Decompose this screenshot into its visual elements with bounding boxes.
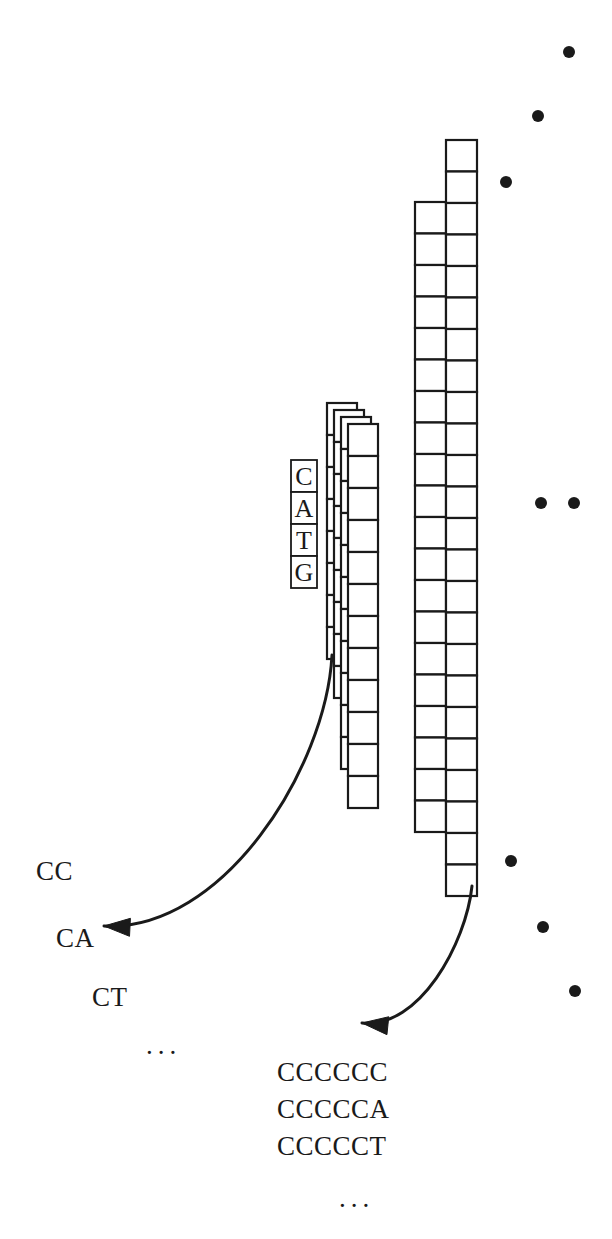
- ellipsis-dot-lower-diagonal-2: [569, 985, 581, 997]
- stack-cell-3-4: [348, 552, 378, 584]
- tall-cell-right-3: [446, 235, 477, 267]
- tall-cell-right-9: [446, 424, 477, 456]
- tall-cell-right-20: [446, 770, 477, 802]
- stack-cell-3-6: [348, 616, 378, 648]
- tall-cell-left-19: [415, 801, 446, 833]
- tall-cell-right-21: [446, 802, 477, 834]
- tall-cell-right-14: [446, 581, 477, 613]
- short-suffix-ellipsis: ...: [146, 1030, 181, 1061]
- dot-group: [500, 46, 581, 997]
- ellipsis-dot-upper-diagonal-1: [532, 110, 544, 122]
- sequence-column-diagram: CATG CCCACT... CCCCCCCCCCCACCCCCT...: [0, 0, 612, 1239]
- tall-cell-right-11: [446, 487, 477, 519]
- diagram-canvas: [0, 0, 612, 1239]
- tall-cell-left-13: [415, 612, 446, 644]
- tall-cell-left-6: [415, 391, 446, 423]
- tall-cell-left-9: [415, 486, 446, 518]
- tall-cell-right-19: [446, 739, 477, 771]
- arrow-to-short-suffixes-head: [104, 918, 130, 936]
- stack-cell-3-1: [348, 456, 378, 488]
- base-letter-c: C: [291, 464, 317, 492]
- tall-cell-left-3: [415, 297, 446, 329]
- ellipsis-dot-lower-diagonal-0: [505, 855, 517, 867]
- ellipsis-dot-upper-diagonal-2: [500, 176, 512, 188]
- stacked-column-group: [327, 403, 378, 808]
- tall-cell-right-7: [446, 361, 477, 393]
- tall-cell-left-18: [415, 769, 446, 801]
- tall-cell-right-0: [446, 140, 477, 172]
- long-suffix-item: CCCCCC: [277, 1057, 388, 1088]
- tall-cell-right-18: [446, 707, 477, 739]
- short-suffix-item: CA: [56, 923, 95, 954]
- tall-cell-left-16: [415, 706, 446, 738]
- stack-cell-3-0: [348, 424, 378, 456]
- tall-cell-left-11: [415, 549, 446, 581]
- stack-cell-3-5: [348, 584, 378, 616]
- tall-cell-left-10: [415, 517, 446, 549]
- tall-cell-left-14: [415, 643, 446, 675]
- short-suffix-item: CC: [36, 856, 73, 887]
- base-letter-t: T: [291, 528, 317, 556]
- tall-cell-left-12: [415, 580, 446, 612]
- short-suffix-item: CT: [92, 982, 128, 1013]
- stack-cell-3-2: [348, 488, 378, 520]
- tall-cell-left-7: [415, 423, 446, 455]
- tall-cell-right-17: [446, 676, 477, 708]
- stack-cell-3-9: [348, 712, 378, 744]
- ellipsis-dot-middle-horizontal-1: [568, 497, 580, 509]
- stack-cell-3-10: [348, 744, 378, 776]
- tall-cell-right-1: [446, 172, 477, 204]
- tall-cell-right-6: [446, 329, 477, 361]
- stack-cell-3-11: [348, 776, 378, 808]
- arrow-to-short-suffixes-line: [104, 655, 332, 926]
- long-suffix-item: CCCCCA: [277, 1094, 390, 1125]
- tall-cell-right-15: [446, 613, 477, 645]
- tall-cell-right-22: [446, 833, 477, 865]
- tall-cell-left-2: [415, 265, 446, 297]
- tall-cell-left-5: [415, 360, 446, 392]
- tall-cell-right-12: [446, 518, 477, 550]
- arrow-to-long-suffixes-line: [362, 886, 472, 1023]
- tall-cell-left-1: [415, 234, 446, 266]
- stack-layer-3: [348, 424, 378, 808]
- stack-cell-3-3: [348, 520, 378, 552]
- tall-cell-left-8: [415, 454, 446, 486]
- arrow-to-long-suffixes-head: [362, 1017, 389, 1035]
- ellipsis-dot-upper-diagonal-0: [563, 46, 575, 58]
- base-letter-a: A: [291, 496, 317, 524]
- stack-cell-3-7: [348, 648, 378, 680]
- tall-cell-right-4: [446, 266, 477, 298]
- long-suffix-item: CCCCCT: [277, 1131, 387, 1162]
- tall-cell-right-5: [446, 298, 477, 330]
- long-suffix-ellipsis: ...: [339, 1183, 374, 1214]
- tall-cell-right-8: [446, 392, 477, 424]
- tall-cell-right-13: [446, 550, 477, 582]
- tall-cell-right-10: [446, 455, 477, 487]
- tall-cell-left-0: [415, 202, 446, 234]
- tall-cell-left-4: [415, 328, 446, 360]
- tall-column-pair: [415, 140, 477, 896]
- stack-cell-3-8: [348, 680, 378, 712]
- ellipsis-dot-lower-diagonal-1: [537, 921, 549, 933]
- tall-cell-left-17: [415, 738, 446, 770]
- tall-cell-right-16: [446, 644, 477, 676]
- tall-cell-right-2: [446, 203, 477, 235]
- ellipsis-dot-middle-horizontal-0: [535, 497, 547, 509]
- tall-cell-left-15: [415, 675, 446, 707]
- base-letter-g: G: [291, 560, 317, 588]
